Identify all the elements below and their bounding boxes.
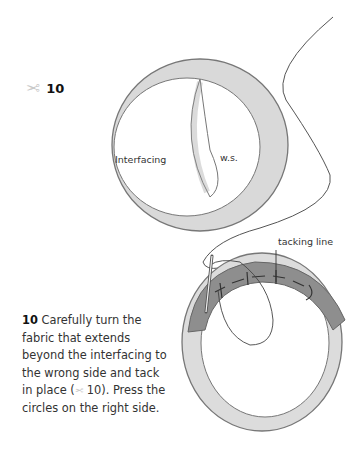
label-tacking-line: tacking line bbox=[278, 236, 333, 247]
caption-ref: 10). bbox=[83, 383, 109, 397]
top-ring bbox=[112, 59, 288, 231]
label-wrong-side: w.s. bbox=[220, 152, 238, 163]
caption: 10 Carefully turn the fabric that extend… bbox=[22, 312, 172, 417]
bottom-ring bbox=[182, 253, 345, 431]
label-interfacing: Interfacing bbox=[115, 154, 166, 165]
caption-step-number: 10 bbox=[22, 313, 38, 327]
scissors-icon: ✂ bbox=[75, 382, 83, 400]
